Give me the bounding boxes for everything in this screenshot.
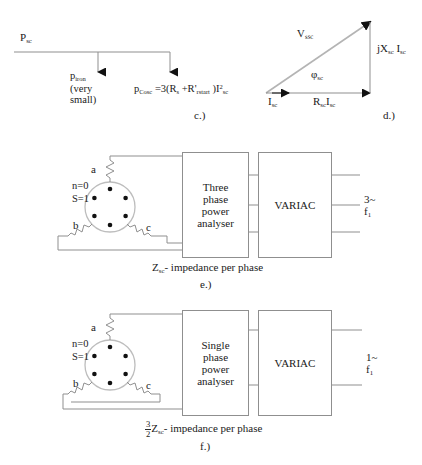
variac-block-f[interactable]: VARIAC (258, 310, 332, 416)
terminal-b-label-f: b (73, 378, 79, 390)
winding-dot (108, 345, 113, 350)
supply-label-e: 3~ f1 (364, 194, 375, 218)
analyser-line-1: Three (197, 181, 234, 193)
panel-d-phasor-triangle (266, 22, 370, 93)
winding-lead-b-f (68, 382, 92, 394)
speed-label-e: n=0 (72, 180, 88, 191)
single-phase-power-analyser-block[interactable]: Single phase power analyser (182, 310, 249, 416)
panel-e-caption: e.) (200, 279, 211, 291)
winding-dot (92, 214, 97, 219)
analyser-line-3: power (197, 205, 234, 217)
winding-dot (123, 354, 128, 359)
variac-label-e: VARIAC (275, 199, 316, 211)
analyser-line-4: analyser (197, 217, 234, 229)
phasor-vssc-vector (266, 22, 370, 93)
winding-dot (123, 214, 128, 219)
terminal-c-label-e: c (146, 222, 151, 234)
analyser-line-2-f: phase (197, 351, 234, 363)
variac-block-e[interactable]: VARIAC (258, 152, 332, 258)
winding-dot (108, 187, 113, 192)
panel-f-caption: f.) (200, 441, 210, 453)
terminal-b-label-e: b (73, 220, 79, 232)
winding-dot (123, 196, 128, 201)
winding-dot (108, 223, 113, 228)
winding-lead-a-e (106, 156, 114, 182)
terminal-a-label-f: a (91, 322, 96, 334)
winding-lead-a-f (106, 314, 114, 340)
iron-loss-note-line1: (very (70, 83, 96, 94)
wire-c-shorting-link-f (71, 394, 160, 402)
winding-dot (92, 354, 97, 359)
panel-c-caption: c.) (194, 110, 205, 122)
iron-loss-note-line2: small) (70, 94, 96, 105)
panel-d-caption: d.) (383, 110, 395, 122)
analyser-line-4-f: analyser (197, 375, 234, 387)
three-phase-power-analyser-block[interactable]: Three phase power analyser (182, 152, 249, 258)
panel-d-vssc-label: Vssc (297, 28, 313, 40)
analyser-line-2: phase (197, 193, 234, 205)
terminal-c-label-f: c (146, 380, 151, 392)
figure-root: Psc piron (very small) pCosc =3(Rs +R'rs… (0, 0, 422, 465)
winding-lead-b-e (68, 224, 92, 236)
supply-frequency-f: f1 (366, 364, 377, 376)
winding-dot (108, 381, 113, 386)
winding-dot (92, 372, 97, 377)
panel-d-jxsc-isc-label: jXsc Isc (377, 43, 406, 55)
analyser-line-1-f: Single (197, 339, 234, 351)
supply-label-f: 1~ f1 (366, 352, 377, 376)
panel-c-input-power-label: Psc (20, 32, 32, 44)
slip-label-e: S=1 (72, 193, 89, 204)
panel-d-rsc-isc-label: RscIsc (313, 96, 335, 108)
analyser-line-3-f: power (197, 363, 234, 375)
supply-frequency-e: f1 (364, 206, 375, 218)
terminal-a-label-e: a (91, 164, 96, 176)
panel-d-phi-label: φsc (311, 69, 323, 81)
panel-c-powerflow (14, 52, 170, 72)
speed-label-f: n=0 (72, 338, 88, 349)
slip-label-f: S=1 (72, 351, 89, 362)
winding-dot (123, 372, 128, 377)
panel-f-impedance-note: 3 2 Zsc- impedance per phase (145, 420, 262, 438)
panel-d-isc-label: Isc (268, 96, 277, 108)
panel-c-iron-loss-label: piron (very small) (70, 70, 96, 105)
variac-label-f: VARIAC (275, 357, 316, 369)
winding-dot (92, 196, 97, 201)
panel-e-impedance-note: Zsc- impedance per phase (152, 262, 263, 274)
panel-c-copper-loss-formula: pCosc =3(Rs +R'rstart )I2sc (134, 83, 228, 96)
